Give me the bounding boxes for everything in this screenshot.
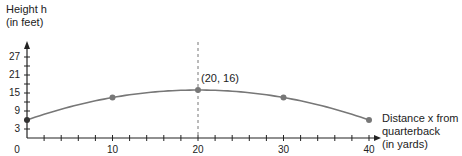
y-tick-label: 15 (2, 88, 20, 98)
x-tick-label: 40 (359, 145, 379, 155)
axes (24, 41, 381, 141)
data-point (24, 117, 30, 123)
data-point (366, 117, 372, 123)
data-point (195, 87, 201, 93)
y-axis-title-line1: Height h (6, 3, 47, 15)
x-tick-label: 10 (103, 145, 123, 155)
y-tick-label: 21 (2, 70, 20, 80)
y-tick-label: 27 (2, 52, 20, 62)
x-axis-title-line2: quarterback (382, 125, 440, 137)
data-point (110, 95, 116, 101)
axis-ticks (24, 57, 369, 141)
x-tick-label: 0 (7, 145, 27, 155)
x-tick-label: 30 (274, 145, 294, 155)
vertex-label: (20, 16) (201, 72, 239, 84)
x-axis-title-line1: Distance x from (382, 112, 458, 124)
y-tick-label: 3 (2, 124, 20, 134)
x-tick-label: 20 (188, 145, 208, 155)
x-axis-title-line3: (in yards) (382, 138, 428, 150)
y-axis-title-line2: (in feet) (6, 16, 43, 28)
y-tick-label: 9 (2, 106, 20, 116)
data-point (281, 95, 287, 101)
